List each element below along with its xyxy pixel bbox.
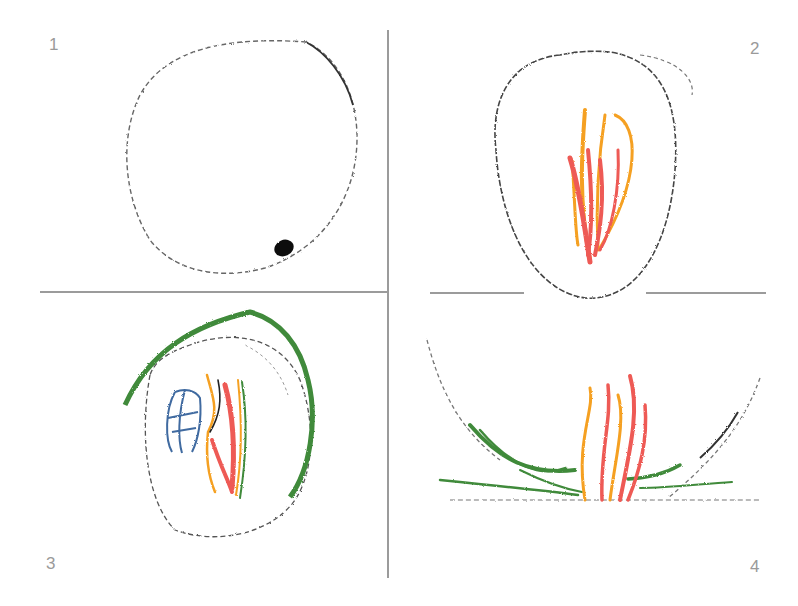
panel-1-label: 1 [49,36,58,53]
panel-4-label: 4 [750,558,759,575]
diagram-canvas: 1 2 3 4 [0,0,798,606]
panel-3-label: 3 [46,555,55,572]
panel-2-drawing [495,51,692,298]
panel-1-circle [127,41,357,274]
flame-strokes-4 [582,376,645,500]
grid-dividers [40,30,766,578]
green-arc [125,312,312,497]
panel-3-drawing [125,312,312,537]
panel-2-label: 2 [750,40,759,57]
panel-4-arc-right [668,378,760,498]
panel-3-circle [145,337,310,536]
drawing-svg [0,0,798,606]
flame-strokes [570,110,632,262]
blue-shape [167,390,200,453]
panel-1-drawing [127,41,357,274]
panel-2-circle [495,51,676,298]
panel-4-drawing [427,340,760,500]
flame-strokes-3 [207,375,246,498]
